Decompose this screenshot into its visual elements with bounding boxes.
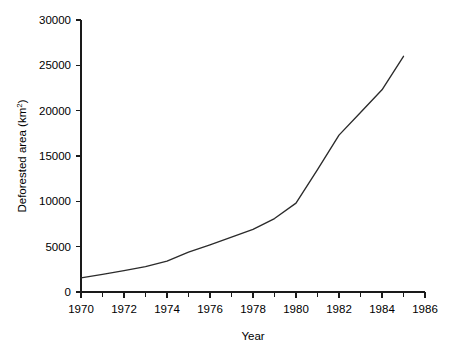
chart-canvas: 050001000015000200002500030000 197019721… bbox=[0, 0, 461, 352]
x-tick-label: 1970 bbox=[68, 303, 94, 315]
deforestation-line-chart: 050001000015000200002500030000 197019721… bbox=[0, 0, 461, 352]
y-tick-label: 30000 bbox=[39, 14, 71, 26]
y-tick-label: 15000 bbox=[39, 150, 71, 162]
x-tick-label: 1974 bbox=[154, 303, 180, 315]
y-tick-label: 25000 bbox=[39, 59, 71, 71]
y-axis-tick-labels: 050001000015000200002500030000 bbox=[39, 14, 71, 298]
x-tick-label: 1980 bbox=[283, 303, 309, 315]
x-axis-title: Year bbox=[241, 330, 264, 342]
y-tick-label: 5000 bbox=[45, 241, 71, 253]
x-tick-label: 1978 bbox=[240, 303, 266, 315]
x-tick-label: 1984 bbox=[369, 303, 395, 315]
y-tick-label: 20000 bbox=[39, 105, 71, 117]
x-axis-major-ticks bbox=[81, 292, 425, 298]
x-tick-label: 1976 bbox=[197, 303, 223, 315]
x-tick-label: 1982 bbox=[326, 303, 352, 315]
y-axis-title: Deforested area (km2) bbox=[15, 99, 28, 212]
y-axis-title-base: Deforested area (km bbox=[16, 108, 28, 213]
y-tick-label: 0 bbox=[65, 286, 71, 298]
x-tick-label: 1972 bbox=[111, 303, 137, 315]
y-tick-label: 10000 bbox=[39, 195, 71, 207]
y-axis-title-tail: ) bbox=[16, 99, 28, 103]
x-tick-label: 1986 bbox=[412, 303, 438, 315]
data-series-line bbox=[81, 56, 404, 278]
x-axis-tick-labels: 197019721974197619781980198219841986 bbox=[68, 303, 438, 315]
y-axis-ticks bbox=[76, 20, 81, 292]
